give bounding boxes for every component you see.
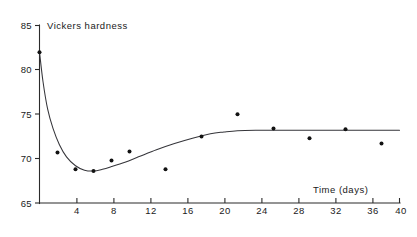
y-axis-title: Vickers hardness — [47, 20, 128, 31]
data-point — [74, 167, 78, 171]
data-point — [164, 167, 168, 171]
x-axis-ticks — [77, 198, 400, 203]
data-point — [128, 150, 132, 154]
x-tick-label-28: 28 — [293, 205, 304, 216]
data-point — [236, 112, 240, 116]
data-point — [344, 127, 348, 131]
x-tick-label-16: 16 — [182, 205, 193, 216]
y-tick-label-70: 70 — [21, 153, 32, 164]
data-point — [56, 150, 60, 154]
data-point — [272, 126, 276, 130]
vickers-hardness-chart: 85 80 75 70 65 4 8 12 16 20 24 28 32 36 … — [0, 0, 417, 237]
data-point — [380, 142, 384, 146]
x-tick-label-36: 36 — [367, 205, 378, 216]
x-tick-label-12: 12 — [145, 205, 156, 216]
chart-plot-area: 85 80 75 70 65 4 8 12 16 20 24 28 32 36 … — [0, 0, 417, 237]
y-tick-label-85: 85 — [21, 20, 32, 31]
data-point — [110, 158, 114, 162]
data-point — [38, 50, 42, 54]
x-axis-title: Time (days) — [313, 184, 368, 195]
x-tick-label-32: 32 — [330, 205, 341, 216]
data-points-group — [38, 50, 384, 173]
x-tick-label-20: 20 — [219, 205, 230, 216]
y-tick-label-75: 75 — [21, 109, 32, 120]
y-tick-label-65: 65 — [21, 198, 32, 209]
y-tick-label-80: 80 — [21, 64, 32, 75]
data-point — [200, 134, 204, 138]
data-point — [308, 136, 312, 140]
x-tick-label-40: 40 — [395, 205, 406, 216]
x-tick-label-4: 4 — [74, 205, 80, 216]
data-point — [92, 169, 96, 173]
fitted-curve — [40, 52, 400, 171]
x-tick-label-24: 24 — [256, 205, 267, 216]
x-tick-label-8: 8 — [111, 205, 117, 216]
